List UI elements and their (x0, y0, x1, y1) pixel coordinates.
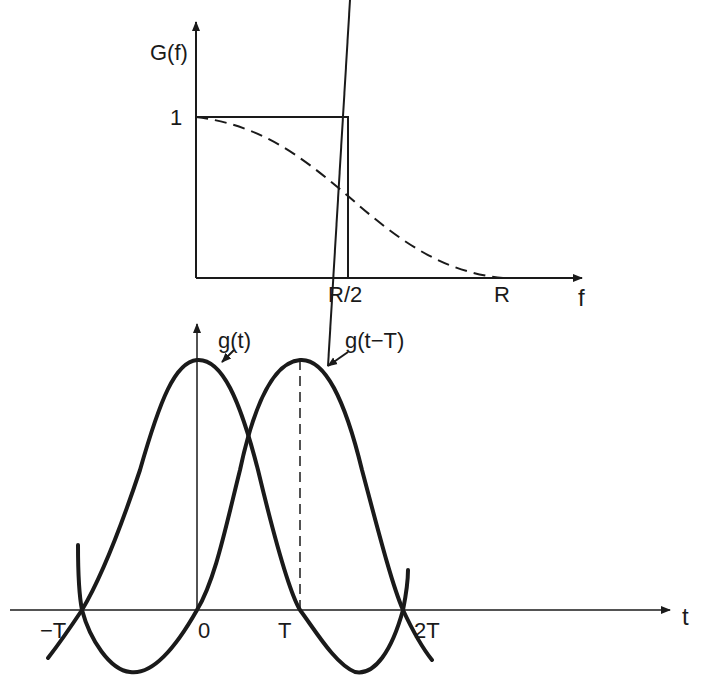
top-plot: G(f) 1 R/2 R f (150, 22, 585, 311)
t-tick-t: T (278, 618, 291, 643)
bottom-plot: g(t) g(t−T) −T 0 T 2T t (10, 0, 689, 672)
t-axis-label: t (682, 603, 689, 630)
x-tick-r: R (494, 282, 510, 307)
y-tick-one: 1 (170, 105, 182, 130)
g-t-label: g(t) (218, 328, 251, 353)
g-t-minus-t-label: g(t−T) (345, 328, 404, 353)
t-tick-minus-t: −T (40, 618, 66, 643)
raised-cosine-dashed-curve (196, 117, 503, 278)
f-axis-label: f (578, 284, 585, 311)
g-of-f-label: G(f) (150, 40, 188, 65)
g-t-minus-t-pointer-line (328, 352, 348, 366)
t-tick-2t: 2T (414, 618, 440, 643)
g-t-minus-t-curve (78, 360, 432, 672)
t-tick-zero: 0 (198, 618, 210, 643)
diagram-canvas: G(f) 1 R/2 R f g(t) g(t−T) −T 0 T 2T t (0, 0, 703, 698)
